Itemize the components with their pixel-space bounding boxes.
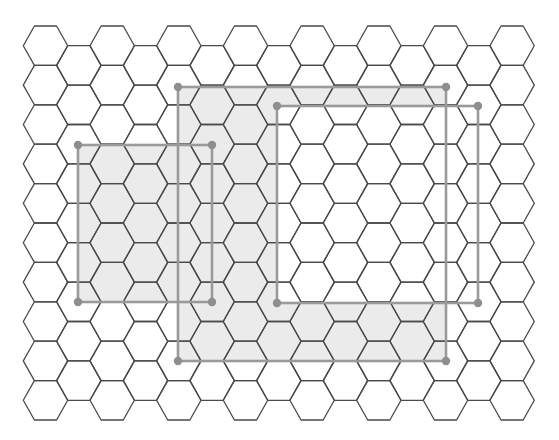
hexagon-cell — [190, 361, 234, 400]
corner-point — [74, 298, 82, 306]
hexagon-cell — [423, 381, 467, 420]
hexagon-cell — [490, 144, 534, 183]
hexagon-cell — [323, 361, 367, 400]
corner-point — [174, 357, 182, 365]
hexagon-cell — [57, 85, 101, 124]
hexagon-cell — [23, 223, 67, 262]
hexagon-cell — [90, 26, 134, 65]
hexagon-cell — [390, 361, 434, 400]
hexagon-cell — [490, 184, 534, 223]
hexagon-cell — [57, 361, 101, 400]
hexagon-cell — [90, 381, 134, 420]
corner-point — [442, 83, 450, 91]
corner-point — [474, 102, 482, 110]
hexagon-cell — [490, 26, 534, 65]
corner-point — [208, 298, 216, 306]
corner-point — [273, 102, 281, 110]
hexagon-cell — [23, 65, 67, 104]
hexagon-cell — [490, 302, 534, 341]
hexagon-cell — [57, 322, 101, 361]
corner-point — [208, 141, 216, 149]
hexagon-cell — [90, 105, 134, 144]
hexagon-cell — [157, 26, 201, 65]
hexagon-cell — [290, 26, 334, 65]
shaded-region-b-minus-c — [178, 87, 446, 361]
corner-point — [174, 83, 182, 91]
hexagon-cell — [490, 381, 534, 420]
hexagon-cell — [257, 46, 301, 85]
corner-point — [74, 141, 82, 149]
hexagon-cell — [23, 184, 67, 223]
hexagon-cell — [490, 65, 534, 104]
hexagon-cell — [90, 65, 134, 104]
hexagon-cell — [357, 26, 401, 65]
hexagon-cell — [23, 302, 67, 341]
hex-grid-diagram — [0, 0, 559, 440]
hexagon-cell — [457, 322, 501, 361]
hexagon-cell — [457, 46, 501, 85]
hexagon-cell — [423, 26, 467, 65]
hexagon-cell — [223, 381, 267, 420]
corner-point — [442, 357, 450, 365]
hexagon-cell — [157, 381, 201, 420]
hexagon-cell — [357, 381, 401, 420]
hexagon-cell — [490, 223, 534, 262]
hexagon-cell — [490, 262, 534, 301]
hexagon-cell — [23, 105, 67, 144]
hexagon-cell — [123, 85, 167, 124]
corner-point — [273, 299, 281, 307]
hexagon-cell — [390, 46, 434, 85]
hexagon-cell — [123, 46, 167, 85]
hexagon-cell — [323, 46, 367, 85]
hexagon-cell — [23, 262, 67, 301]
corner-point — [474, 299, 482, 307]
hexagon-cell — [257, 361, 301, 400]
hexagon-cell — [490, 105, 534, 144]
hexagon-cell — [90, 341, 134, 380]
hexagon-cell — [490, 341, 534, 380]
hexagon-cell — [457, 361, 501, 400]
hexagon-cell — [90, 302, 134, 341]
hexagon-cell — [57, 46, 101, 85]
hexagon-cell — [23, 26, 67, 65]
hexagon-cell — [23, 341, 67, 380]
hexagon-cell — [123, 322, 167, 361]
hexagon-cell — [23, 381, 67, 420]
hexagon-cell — [290, 381, 334, 420]
hexagon-cell — [190, 46, 234, 85]
hexagon-cell — [223, 26, 267, 65]
hexagon-cell — [23, 144, 67, 183]
hexagon-cell — [123, 361, 167, 400]
